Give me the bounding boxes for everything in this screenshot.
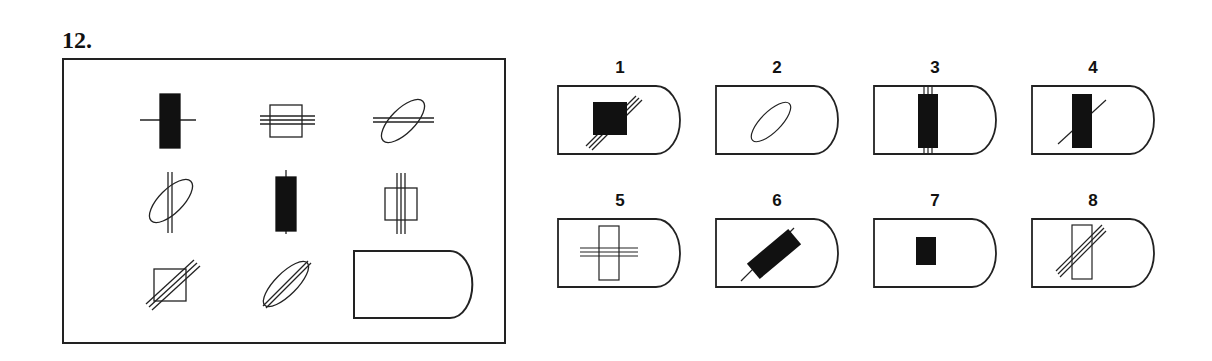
option-2[interactable]: [714, 84, 842, 156]
cell-1-1-figure: [140, 94, 196, 148]
option-3[interactable]: [872, 84, 1000, 156]
option-4[interactable]: [1030, 84, 1158, 156]
option-6-figure: [714, 217, 842, 289]
option-2-figure: [714, 84, 842, 156]
missing-cell-blank-shape: [354, 251, 472, 318]
option-label-1: 1: [605, 58, 635, 78]
question-number: 12.: [62, 27, 92, 54]
cell-2-2-figure: [276, 170, 296, 234]
option-5[interactable]: [556, 217, 684, 289]
option-3-figure: [872, 84, 1000, 156]
option-label-6: 6: [762, 191, 792, 211]
option-label-4: 4: [1078, 58, 1108, 78]
option-8[interactable]: [1030, 217, 1158, 289]
option-7-figure: [872, 217, 1000, 289]
option-label-7: 7: [920, 191, 950, 211]
option-5-figure: [556, 217, 684, 289]
puzzle-matrix: [62, 58, 506, 344]
cell-3-2-figure: [257, 255, 315, 313]
option-7[interactable]: [872, 217, 1000, 289]
option-8-figure: [1030, 217, 1158, 289]
option-1[interactable]: [556, 84, 684, 156]
option-6[interactable]: [714, 217, 842, 289]
cell-1-2-figure: [260, 105, 315, 137]
option-label-3: 3: [920, 58, 950, 78]
cell-2-3-figure: [385, 173, 417, 234]
option-1-figure: [556, 84, 684, 156]
option-label-5: 5: [605, 191, 635, 211]
option-label-8: 8: [1078, 191, 1108, 211]
matrix-figures: [64, 60, 508, 346]
cell-2-1-figure: [143, 172, 200, 233]
option-4-figure: [1030, 84, 1158, 156]
cell-1-3-figure: [373, 93, 434, 150]
cell-3-1-figure: [146, 260, 200, 310]
option-label-2: 2: [762, 58, 792, 78]
